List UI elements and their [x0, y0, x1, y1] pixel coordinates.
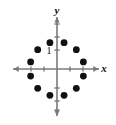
scatter-plot-svg: y x 1 [0, 0, 116, 125]
data-point [61, 92, 68, 99]
data-point [73, 85, 80, 92]
data-point [27, 73, 34, 80]
data-point [34, 46, 41, 53]
data-point [47, 39, 54, 46]
x-axis-label: x [100, 62, 107, 74]
coordinate-plane-figure: y x 1 [0, 0, 116, 125]
data-point [80, 59, 87, 66]
y-axis-label: y [53, 4, 60, 16]
data-point [80, 73, 87, 80]
plot-background [0, 0, 116, 125]
data-point [34, 85, 41, 92]
data-point [73, 46, 80, 53]
y-axis-tick-label-one: 1 [47, 45, 52, 56]
data-point [61, 39, 68, 46]
data-point [27, 59, 34, 66]
data-point [47, 92, 54, 99]
